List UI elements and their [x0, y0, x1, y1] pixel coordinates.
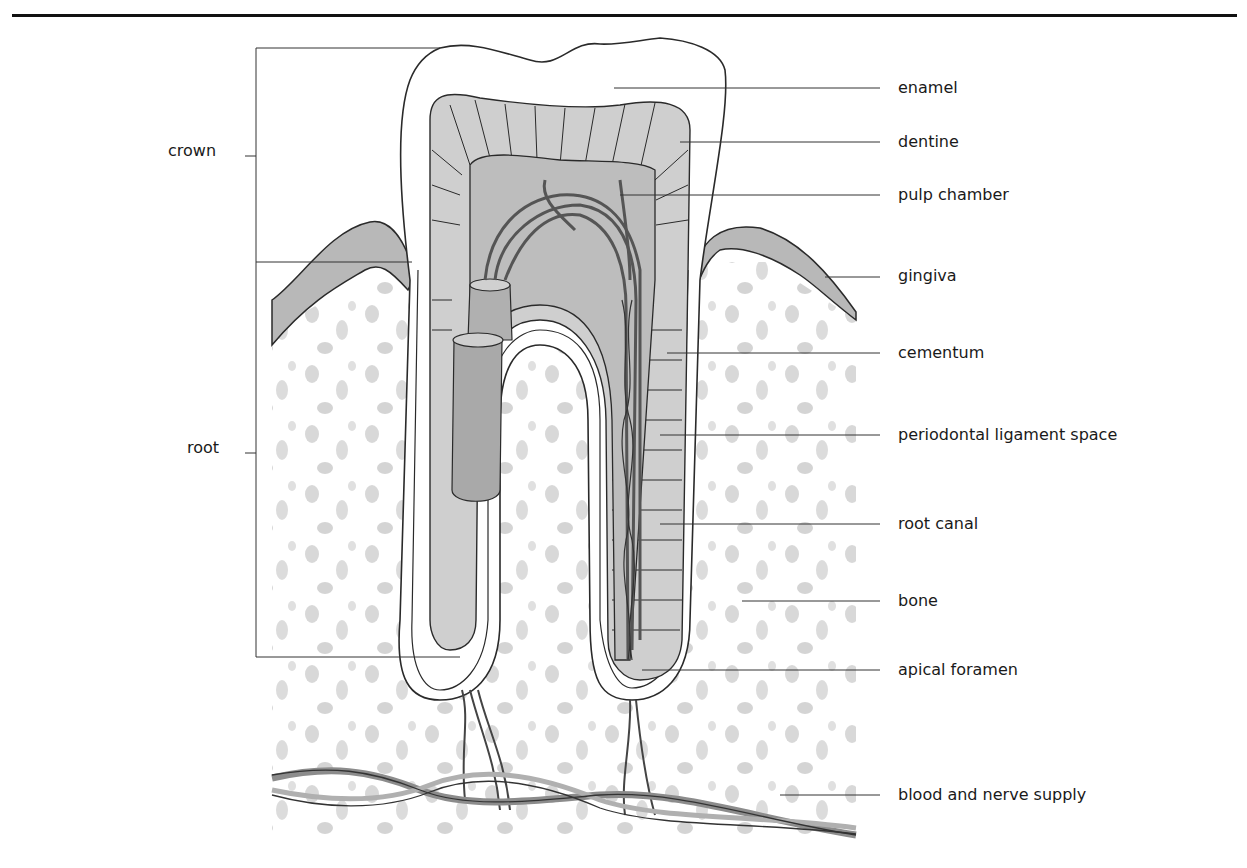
label-enamel: enamel — [898, 80, 958, 96]
label-pulp-chamber: pulp chamber — [898, 187, 1009, 203]
label-blood-and-nerve-supply: blood and nerve supply — [898, 787, 1086, 803]
label-apical-foramen: apical foramen — [898, 662, 1018, 678]
cut-vessel-upper — [468, 285, 512, 340]
label-root-canal: root canal — [898, 516, 978, 532]
label-periodontal-ligament-space: periodontal ligament space — [898, 427, 1117, 443]
label-dentine: dentine — [898, 134, 959, 150]
label-bone: bone — [898, 593, 938, 609]
label-gingiva: gingiva — [898, 268, 957, 284]
label-crown: crown — [168, 143, 216, 159]
label-cementum: cementum — [898, 345, 984, 361]
label-root: root — [187, 440, 219, 456]
cut-vessel-lower — [452, 340, 502, 501]
